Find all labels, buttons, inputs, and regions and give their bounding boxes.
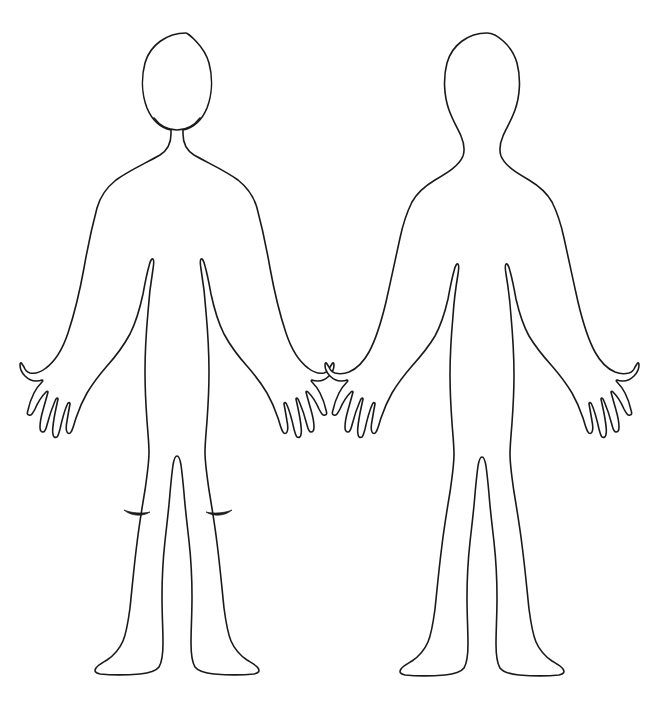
figure-back-view[interactable] (325, 33, 639, 676)
figure-front-view[interactable] (20, 33, 334, 675)
back-body-outline[interactable] (325, 33, 639, 676)
body-diagram-canvas: Human Body Diagram Blank anatomical body… (0, 0, 665, 708)
body-diagram-svg (0, 0, 665, 708)
